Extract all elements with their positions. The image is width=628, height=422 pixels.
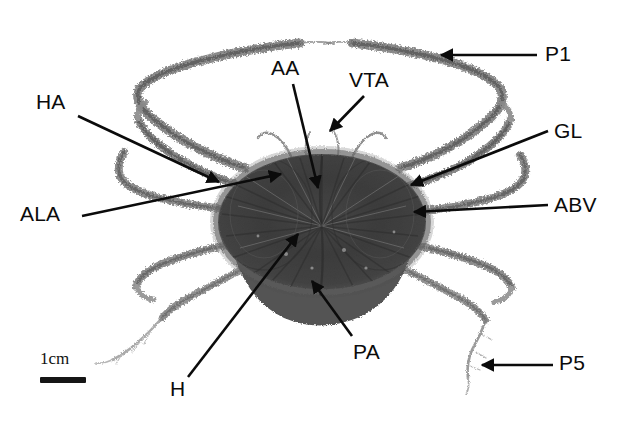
annotation-overlay — [0, 0, 628, 422]
leader-line-gl — [411, 131, 548, 185]
label-p5: P5 — [559, 352, 585, 373]
leader-line-vta — [330, 96, 364, 131]
leader-line-h — [188, 234, 298, 377]
leader-line-abv — [414, 205, 548, 212]
label-vta: VTA — [349, 69, 389, 90]
scale-bar-caption: 1cm — [40, 350, 69, 367]
label-h: H — [170, 378, 185, 399]
label-ha: HA — [36, 91, 66, 112]
label-gl: GL — [554, 120, 582, 141]
label-aa: AA — [271, 57, 299, 78]
specimen-figure: P1 VTA AA HA GL ABV ALA PA H P5 1cm — [0, 0, 628, 422]
label-p1: P1 — [545, 43, 571, 64]
label-abv: ABV — [554, 194, 597, 215]
leader-line-aa — [293, 84, 318, 188]
label-ala: ALA — [20, 203, 60, 224]
leader-line-pa — [312, 281, 352, 336]
leader-line-ala — [82, 174, 281, 216]
label-pa: PA — [353, 341, 380, 362]
leader-line-ha — [78, 116, 219, 182]
scale-bar — [40, 377, 86, 383]
